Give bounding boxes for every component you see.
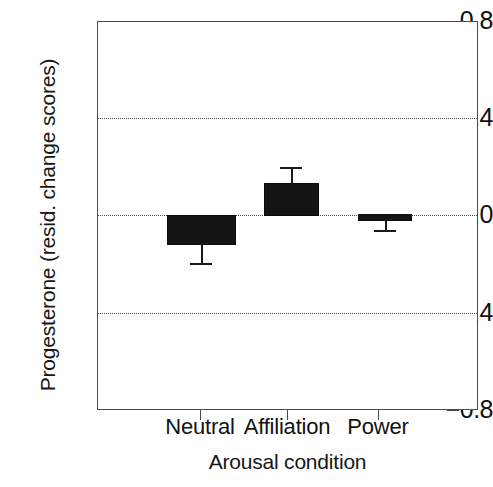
error-bar-stem-affiliation [291,167,293,184]
y-axis-title: Progesterone (resid. change scores) [36,25,60,425]
bar-power [358,214,412,221]
error-bar-stem-neutral [201,245,203,263]
x-axis-title: Arousal condition [97,450,478,474]
bar-affiliation [264,183,319,216]
gridline-0.4 [98,118,477,119]
gridline-neg0.4 [98,313,477,314]
error-bar-stem-power [385,221,387,230]
error-bar-cap-power [374,230,396,232]
bar-neutral [167,215,236,245]
error-bar-cap-neutral [190,263,212,265]
x-tick-label-power: Power [323,414,433,440]
error-bar-cap-affiliation [280,167,302,169]
plot-area [97,21,478,410]
bar-chart-figure: Progesterone (resid. change scores) 0.8 … [0,0,493,487]
